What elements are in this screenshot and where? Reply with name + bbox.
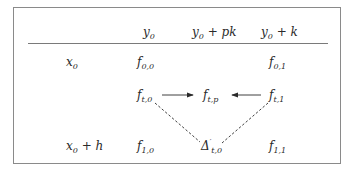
dashed-ft0-to-delta <box>155 103 200 142</box>
dashed-ft1-to-delta <box>222 103 268 143</box>
diagram-edges <box>0 0 356 177</box>
